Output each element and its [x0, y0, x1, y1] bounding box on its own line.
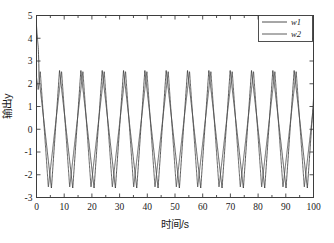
- x-tick-label: 40: [143, 202, 153, 212]
- x-tick-label: 30: [115, 202, 125, 212]
- legend-label-w2: w2: [291, 29, 302, 39]
- y-tick-label: 1: [28, 102, 33, 112]
- x-tick-label: 20: [87, 202, 97, 212]
- x-tick-label: 80: [253, 202, 263, 212]
- legend-label-w1: w1: [291, 17, 301, 27]
- x-tick-label: 0: [34, 202, 39, 212]
- y-tick-label: 4: [28, 34, 33, 44]
- y-tick-label: -2: [25, 170, 33, 180]
- x-tick-label: 90: [281, 202, 291, 212]
- y-tick-label: 5: [28, 11, 33, 21]
- legend-background: [259, 16, 313, 42]
- y-tick-label: 0: [28, 125, 33, 135]
- y-tick-label: -1: [25, 147, 33, 157]
- x-tick-label: 100: [306, 202, 321, 212]
- chart-figure: 0102030405060708090100 -3-2-1012345 时间/s…: [0, 0, 334, 243]
- y-tick-label: 2: [28, 79, 33, 89]
- x-tick-label: 70: [226, 202, 236, 212]
- y-axis-title: 输出y: [1, 93, 13, 119]
- x-tick-label: 10: [59, 202, 69, 212]
- x-tick-label: 50: [170, 202, 180, 212]
- y-tick-label: 3: [28, 56, 33, 66]
- y-tick-label: -3: [25, 193, 33, 203]
- x-tick-label: 60: [198, 202, 208, 212]
- chart-legend[interactable]: w1 w2: [259, 16, 313, 42]
- x-axis-title: 时间/s: [161, 218, 189, 230]
